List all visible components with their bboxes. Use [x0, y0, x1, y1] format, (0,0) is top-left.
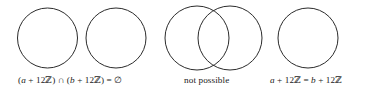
circle-overlap-right [198, 6, 262, 70]
empty-set-symbol: ∅ [114, 75, 122, 85]
caption-disjoint-close-paren-2: ) = [101, 75, 114, 85]
caption-disjoint: (a + 12ℤ) ∩ (b + 12ℤ) = ∅ [18, 76, 122, 85]
equals-symbol: = [301, 75, 311, 85]
circle-disjoint-left [18, 8, 78, 68]
caption-equal-plus-2: + [316, 75, 326, 85]
circle-overlap-left [165, 6, 229, 70]
circle-disjoint-right [86, 8, 146, 68]
caption-disjoint-plus-2: + [75, 75, 85, 85]
caption-not-possible: not possible [184, 76, 229, 85]
caption-equal: a + 12ℤ = b + 12ℤ [270, 76, 342, 85]
caption-equal-modulus-2: 12ℤ [326, 75, 342, 85]
caption-equal-modulus-1: 12ℤ [285, 75, 301, 85]
caption-disjoint-plus-1: + [26, 75, 36, 85]
caption-disjoint-modulus-2: 12ℤ [85, 75, 101, 85]
circle-equal-single [278, 8, 338, 68]
caption-equal-plus-1: + [275, 75, 285, 85]
venn-diagram-figure: (a + 12ℤ) ∩ (b + 12ℤ) = ∅ not possible a… [0, 0, 365, 95]
caption-disjoint-modulus-1: 12ℤ [36, 75, 52, 85]
